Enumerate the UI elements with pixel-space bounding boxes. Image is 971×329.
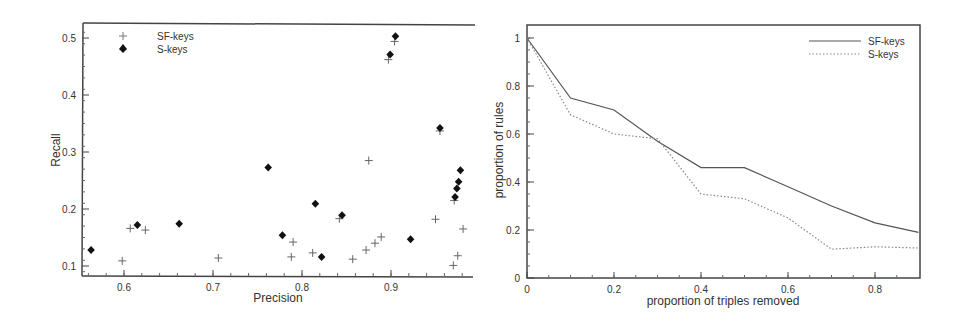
legend-label-sf-keys: SF-keys: [157, 31, 194, 42]
left-y-tick-label: 0.3: [62, 147, 76, 158]
left-legend: SF-keys S-keys: [119, 31, 194, 55]
data-point-sf-keys: [371, 239, 379, 247]
scatter-chart-precision-recall: 0.60.70.80.90.10.20.30.40.5 SF-keys S-ke…: [49, 23, 475, 305]
left-x-tick-label: 0.7: [206, 282, 220, 293]
data-point-s-keys: [453, 184, 461, 192]
left-y-tick-label: 0.1: [62, 261, 76, 272]
legend-diamond-icon: [119, 44, 127, 53]
right-y-tick-label: 0.4: [506, 177, 520, 188]
left-data-points: [87, 32, 467, 269]
data-point-s-keys: [392, 32, 400, 40]
right-plot-frame: [527, 25, 920, 278]
left-x-axis-label: Precision: [253, 291, 302, 305]
data-point-sf-keys: [214, 254, 222, 262]
data-point-sf-keys: [287, 253, 295, 261]
legend-plus-icon: [119, 32, 127, 40]
left-axis-x: [82, 276, 473, 277]
data-point-sf-keys: [141, 226, 149, 234]
data-point-s-keys: [312, 200, 320, 208]
data-point-sf-keys: [432, 215, 440, 223]
right-y-tick-label: 0.6: [506, 129, 520, 140]
data-point-s-keys: [407, 235, 415, 243]
data-point-sf-keys: [118, 257, 126, 265]
data-point-s-keys: [318, 253, 326, 261]
figure-canvas: 0.60.70.80.90.10.20.30.40.5 SF-keys S-ke…: [0, 0, 971, 329]
right-y-tick-label: 0.8: [506, 81, 520, 92]
data-point-s-keys: [264, 163, 272, 171]
left-y-tick-label: 0.4: [62, 90, 76, 101]
right-y-tick-label: 0: [514, 273, 520, 284]
right-x-tick-label: 0: [524, 284, 530, 295]
left-y-tick-label: 0.2: [62, 204, 76, 215]
right-legend: SF-keys S-keys: [809, 36, 905, 60]
right-ticks: 00.20.40.60.800.20.40.60.81: [506, 33, 897, 296]
left-x-tick-label: 0.6: [117, 282, 131, 293]
data-point-s-keys: [455, 178, 463, 186]
right-x-tick-label: 0.8: [868, 284, 882, 295]
right-x-axis-label: proportion of triples removed: [647, 294, 800, 308]
legend-label-s-keys-right: S-keys: [868, 49, 899, 60]
data-point-sf-keys: [454, 252, 462, 260]
right-x-tick-label: 0.2: [607, 284, 621, 295]
data-point-sf-keys: [377, 233, 385, 241]
data-point-sf-keys: [289, 238, 297, 246]
data-point-sf-keys: [349, 255, 357, 263]
legend-label-sf-keys-right: SF-keys: [868, 36, 905, 47]
left-axis-top: [83, 23, 475, 25]
data-point-s-keys: [279, 231, 287, 239]
right-y-tick-label: 1: [514, 33, 520, 44]
data-point-sf-keys: [309, 249, 317, 257]
left-x-tick-label: 0.9: [384, 282, 398, 293]
data-point-sf-keys: [459, 225, 467, 233]
data-point-s-keys: [451, 193, 459, 201]
right-y-tick-label: 0.2: [506, 225, 520, 236]
data-point-s-keys: [175, 220, 183, 228]
line-chart-rules-vs-triples: 00.20.40.60.800.20.40.60.81 SF-keys S-ke…: [492, 25, 920, 308]
right-y-axis-label: proportion of rules: [492, 102, 506, 199]
data-point-sf-keys: [362, 246, 370, 254]
left-y-axis-label: Recall: [49, 133, 63, 166]
data-point-sf-keys: [449, 261, 457, 269]
data-point-s-keys: [134, 221, 142, 229]
data-point-s-keys: [87, 246, 95, 254]
data-point-s-keys: [457, 166, 465, 174]
line-sf-keys: [527, 38, 919, 232]
data-point-sf-keys: [365, 157, 373, 165]
legend-label-s-keys: S-keys: [157, 44, 188, 55]
data-point-s-keys: [386, 51, 394, 59]
left-axis-y: [82, 23, 83, 276]
left-y-tick-label: 0.5: [62, 33, 76, 44]
data-point-sf-keys: [126, 224, 134, 232]
left-ticks: 0.60.70.80.90.10.20.30.40.5: [62, 32, 462, 293]
